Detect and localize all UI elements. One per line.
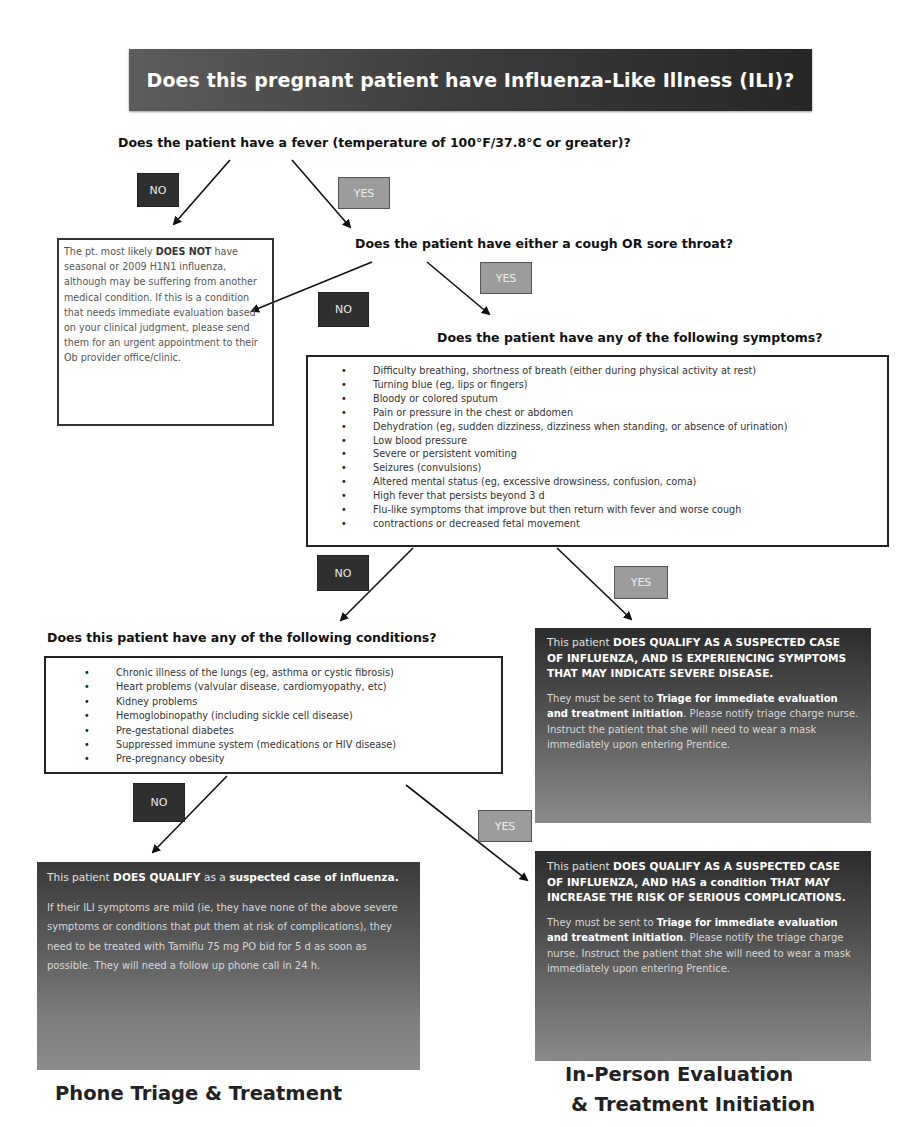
page-title: Does this pregnant patient have Influenz… bbox=[147, 69, 795, 91]
mild-lead-bold-1: DOES QUALIFY bbox=[113, 871, 200, 883]
mild-lead-mid: as a bbox=[201, 871, 230, 883]
condition-item: Kidney problems bbox=[116, 695, 501, 709]
condition-item: Suppressed immune system (medications or… bbox=[116, 738, 501, 752]
symptom-item: Flu-like symptoms that improve but then … bbox=[373, 503, 887, 517]
outcome-in-person-line2: & Treatment Initiation bbox=[571, 1093, 815, 1116]
condition-item: Chronic illness of the lungs (eg, asthma… bbox=[116, 666, 501, 680]
risk-condition-lead: This patient DOES QUALIFY AS A SUSPECTED… bbox=[547, 859, 859, 906]
branch-yes-symptoms: YES bbox=[614, 566, 668, 599]
symptom-item: Dehydration (eg, sudden dizziness, dizzi… bbox=[373, 420, 887, 434]
symptoms-list-box: Difficulty breathing, shortness of breat… bbox=[306, 355, 889, 547]
symptom-item: Low blood pressure bbox=[373, 434, 887, 448]
symptom-item: Turning blue (eg, lips or fingers) bbox=[373, 378, 887, 392]
not-influenza-text: have seasonal or 2009 H1N1 influenza, al… bbox=[64, 246, 258, 363]
symptom-item: Difficulty breathing, shortness of breat… bbox=[373, 364, 887, 378]
question-conditions: Does this patient have any of the follow… bbox=[47, 630, 437, 645]
symptom-item: contractions or decreased fetal movement bbox=[373, 517, 887, 531]
outcome-in-person-line1: In-Person Evaluation bbox=[565, 1063, 793, 1086]
risk-lead-mid: a condition bbox=[696, 876, 770, 888]
branch-no-symptoms: NO bbox=[317, 555, 369, 591]
question-cough: Does the patient have either a cough OR … bbox=[355, 236, 733, 251]
risk-lead-prefix: This patient bbox=[547, 860, 613, 872]
branch-no-conditions: NO bbox=[133, 783, 185, 822]
branch-no-fever: NO bbox=[137, 173, 179, 207]
conditions-list: Chronic illness of the lungs (eg, asthma… bbox=[116, 666, 501, 767]
condition-item: Pre-gestational diabetes bbox=[116, 724, 501, 738]
symptom-item: Pain or pressure in the chest or abdomen bbox=[373, 406, 887, 420]
question-fever: Does the patient have a fever (temperatu… bbox=[118, 135, 631, 150]
question-symptoms: Does the patient have any of the followi… bbox=[437, 330, 823, 345]
risk-condition-box: This patient DOES QUALIFY AS A SUSPECTED… bbox=[535, 851, 871, 1061]
mild-case-body: If their ILI symptoms are mild (ie, they… bbox=[47, 898, 410, 976]
outcome-phone-triage: Phone Triage & Treatment bbox=[55, 1082, 342, 1105]
condition-item: Hemoglobinopathy (including sickle cell … bbox=[116, 709, 501, 723]
symptom-item: Bloody or colored sputum bbox=[373, 392, 887, 406]
severe-disease-body: They must be sent to Triage for immediat… bbox=[547, 691, 859, 753]
symptom-item: Altered mental status (eg, excessive dro… bbox=[373, 475, 887, 489]
not-influenza-emphasis: DOES NOT bbox=[156, 246, 212, 257]
symptom-item: Severe or persistent vomiting bbox=[373, 447, 887, 461]
not-influenza-prefix: The pt. most likely bbox=[64, 246, 156, 257]
title-banner: Does this pregnant patient have Influenz… bbox=[129, 49, 812, 111]
branch-yes-conditions: YES bbox=[478, 810, 532, 842]
condition-item: Pre-pregnancy obesity bbox=[116, 752, 501, 766]
symptoms-list: Difficulty breathing, shortness of breat… bbox=[373, 364, 887, 531]
severe-disease-lead: This patient DOES QUALIFY AS A SUSPECTED… bbox=[547, 635, 859, 682]
mild-case-lead: This patient DOES QUALIFY as a suspected… bbox=[47, 870, 410, 886]
symptom-item: High fever that persists beyond 3 d bbox=[373, 489, 887, 503]
risk-condition-body: They must be sent to Triage for immediat… bbox=[547, 915, 859, 977]
branch-yes-fever: YES bbox=[338, 177, 390, 209]
severe-body-prefix: They must be sent to bbox=[547, 693, 657, 704]
symptom-item: Seizures (convulsions) bbox=[373, 461, 887, 475]
mild-case-box: This patient DOES QUALIFY as a suspected… bbox=[37, 862, 420, 1070]
branch-no-cough: NO bbox=[318, 292, 369, 327]
not-influenza-box: The pt. most likely DOES NOT have season… bbox=[57, 238, 274, 426]
branch-yes-cough: YES bbox=[480, 262, 532, 294]
condition-item: Heart problems (valvular disease, cardio… bbox=[116, 680, 501, 694]
risk-body-prefix: They must be sent to bbox=[547, 917, 657, 928]
conditions-list-box: Chronic illness of the lungs (eg, asthma… bbox=[44, 656, 503, 774]
severe-disease-box: This patient DOES QUALIFY AS A SUSPECTED… bbox=[535, 628, 871, 823]
mild-lead-prefix: This patient bbox=[47, 871, 113, 883]
severe-lead-prefix: This patient bbox=[547, 636, 613, 648]
mild-lead-bold-2: suspected case of influenza. bbox=[229, 871, 399, 883]
